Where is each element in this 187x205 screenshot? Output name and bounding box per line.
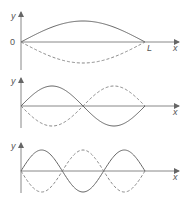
x-axis-label: x [172, 107, 178, 117]
y-axis-label: y [10, 141, 16, 151]
origin-label: 0 [10, 37, 15, 47]
panel-first-harmonic: y x 0 L [10, 11, 179, 70]
panel-second-harmonic: y x [10, 76, 179, 128]
wave-dashed [21, 42, 145, 63]
length-label: L [147, 43, 152, 53]
panel-third-harmonic: y x [10, 141, 179, 193]
x-axis-label: x [172, 172, 178, 182]
x-axis-label: x [172, 43, 178, 53]
wave-solid [21, 21, 145, 42]
standing-waves-diagram: y x 0 L y x y x [0, 0, 187, 205]
y-axis-label: y [10, 76, 16, 86]
y-axis-label: y [10, 11, 16, 21]
